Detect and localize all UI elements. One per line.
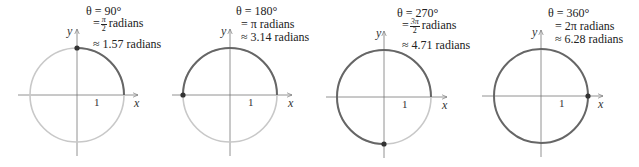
theta-radian-label: = π radians [241, 18, 294, 30]
equals-sign: = [402, 18, 409, 32]
y-axis-label: y [532, 25, 537, 40]
theta-approx-label: ≈ 4.71 radians [402, 39, 470, 51]
fraction: π2 [101, 16, 107, 33]
theta-degree-label: θ = 360° [548, 7, 589, 19]
x-axis-label: x [442, 98, 447, 113]
radians-word: radians [422, 18, 457, 32]
fraction-denominator: 2 [101, 25, 107, 33]
unit-tick-label: 1 [559, 97, 565, 109]
x-axis-label: x [134, 96, 139, 111]
unit-tick-label: 1 [402, 98, 408, 110]
theta-radian-label: = 2π radians [555, 20, 614, 32]
terminal-point [585, 93, 590, 98]
equals-sign: = [93, 16, 100, 30]
unit-tick-label: 1 [94, 96, 100, 108]
theta-radian-label: =3π2radians [402, 18, 456, 35]
fraction-denominator: 2 [410, 27, 420, 35]
fraction: 3π2 [410, 18, 420, 35]
y-axis-label: y [221, 24, 226, 39]
panel-360-degrees [482, 30, 603, 157]
x-axis-label: x [288, 96, 293, 111]
theta-approx-label: ≈ 1.57 radians [93, 38, 161, 50]
terminal-point [180, 92, 185, 97]
unit-tick-label: 1 [248, 96, 254, 108]
terminal-point [381, 141, 386, 146]
theta-degree-label: θ = 180° [236, 5, 277, 17]
radians-word: radians [109, 16, 144, 30]
theta-approx-label: ≈ 6.28 radians [555, 33, 623, 45]
y-axis-label: y [67, 24, 72, 39]
theta-radian-label: =π2radians [93, 16, 143, 33]
panel-180-degrees [172, 29, 292, 156]
x-axis-label: x [598, 97, 603, 112]
theta-approx-label: ≈ 3.14 radians [241, 31, 309, 43]
swept-arc [77, 48, 124, 95]
terminal-point [74, 45, 79, 50]
y-axis-label: y [376, 26, 381, 41]
